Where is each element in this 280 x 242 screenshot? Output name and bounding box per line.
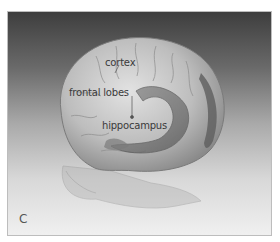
figure-panel: cortex frontal lobes hippocampus C (7, 11, 272, 236)
label-hippocampus: hippocampus (102, 120, 167, 132)
panel-letter: C (19, 212, 27, 226)
head-outline (62, 166, 201, 208)
label-frontal-lobes: frontal lobes (69, 87, 129, 99)
label-cortex: cortex (105, 57, 135, 69)
